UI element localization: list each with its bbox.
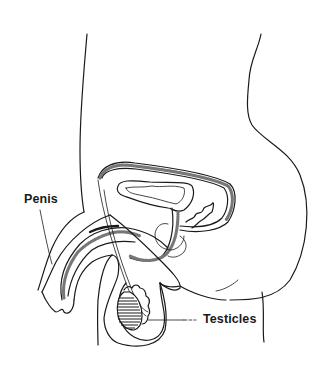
- bladder-inner: [102, 168, 228, 226]
- leg-outline: [98, 255, 112, 345]
- bladder-cavity-outer: [117, 181, 193, 212]
- bladder-cavity-inner: [126, 186, 185, 204]
- label-testicles: Testicles: [203, 313, 256, 326]
- body-outline-back: [230, 34, 307, 300]
- penis-glans: [42, 292, 74, 313]
- diagram-canvas: Penis Testicles: [0, 0, 331, 368]
- thigh-line: [216, 280, 238, 291]
- rectum-lower: [110, 215, 180, 290]
- label-penis: Penis: [24, 193, 58, 206]
- perineum-line: [160, 283, 226, 300]
- prostate: [155, 223, 184, 250]
- body-outline-front: [80, 34, 87, 212]
- anatomy-illustration: [0, 0, 331, 368]
- testicle: [117, 292, 142, 330]
- seminal-vesicle: [186, 203, 214, 228]
- buttock-crease: [262, 292, 264, 342]
- penis-leader-line: [40, 210, 52, 264]
